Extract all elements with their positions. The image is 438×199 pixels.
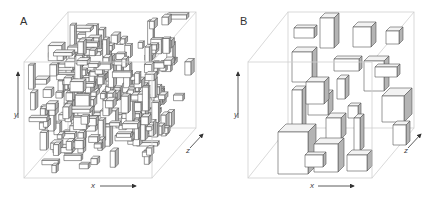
z-axis-label-b: z — [404, 146, 408, 155]
x-axis-label-a: x — [91, 181, 95, 190]
y-axis-label-a: y — [14, 110, 18, 119]
boxes-b — [278, 13, 412, 174]
panel-b — [238, 12, 421, 186]
panel-label-b: B — [240, 15, 247, 27]
x-axis-label-b: x — [310, 181, 314, 190]
panel-label-a: A — [20, 15, 27, 27]
z-axis-arrow-a — [190, 134, 203, 148]
figure-canvas — [0, 0, 438, 199]
z-axis-label-a: z — [186, 146, 190, 155]
panel-a — [18, 12, 203, 186]
boxes-a — [28, 13, 194, 173]
y-axis-label-b: y — [234, 110, 238, 119]
